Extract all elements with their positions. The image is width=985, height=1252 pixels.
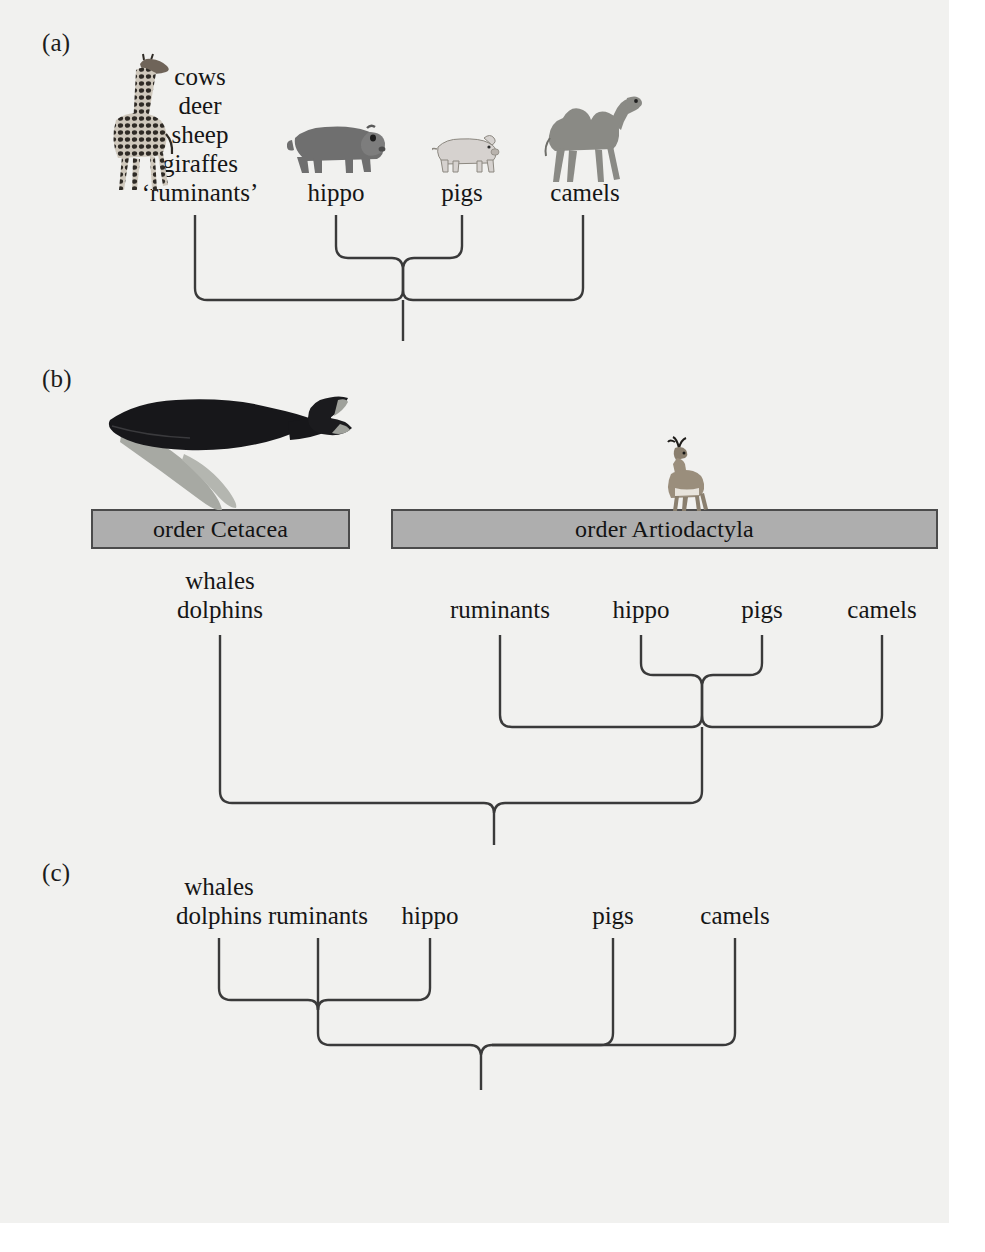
taxon-pigs-a: pigs: [441, 178, 483, 207]
panel-label-c: (c): [42, 860, 70, 885]
taxon-hippo-a: hippo: [308, 178, 365, 207]
taxon-hippo-c: hippo: [402, 901, 459, 930]
taxon-line-ruminants: ‘ruminants’: [110, 178, 290, 207]
taxon-whales-dolphins-b: whales dolphins: [130, 566, 310, 624]
taxon-line-giraffes: giraffes: [110, 149, 290, 178]
taxon-ruminants-group-a: cows deer sheep giraffes ‘ruminants’: [110, 62, 290, 207]
taxon-line-whales: whales: [130, 566, 310, 595]
order-artiodactyla-box: order Artiodactyla: [391, 509, 938, 549]
order-artiodactyla-label: order Artiodactyla: [575, 516, 754, 543]
taxon-camels-b: camels: [847, 595, 916, 624]
taxon-line-cows: cows: [110, 62, 290, 91]
taxon-camels-c: camels: [700, 901, 769, 930]
taxon-line-sheep: sheep: [110, 120, 290, 149]
taxon-ruminants-c: ruminants: [268, 901, 368, 930]
taxon-hippo-b: hippo: [613, 595, 670, 624]
taxon-camels-a: camels: [550, 178, 619, 207]
taxon-ruminants-b: ruminants: [450, 595, 550, 624]
order-cetacea-label: order Cetacea: [153, 516, 288, 543]
taxon-line-whales: whales: [134, 872, 304, 901]
taxon-pigs-c: pigs: [592, 901, 634, 930]
taxon-pigs-b: pigs: [741, 595, 783, 624]
order-cetacea-box: order Cetacea: [91, 509, 350, 549]
taxon-line-dolphins: dolphins: [130, 595, 310, 624]
panel-label-b: (b): [42, 366, 72, 391]
taxon-line-deer: deer: [110, 91, 290, 120]
figure-page: (a) (b) (c) cows deer sheep giraffes ‘ru…: [0, 0, 985, 1252]
panel-label-a: (a): [42, 30, 70, 55]
